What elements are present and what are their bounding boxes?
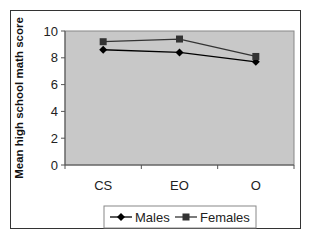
y-tick-label: 10 (44, 24, 58, 39)
x-tick-label: EO (170, 178, 189, 193)
legend: MalesFemales (104, 206, 256, 228)
line-chart: 0246810 CSEOO MalesFemales (0, 0, 310, 239)
y-tick-label: 4 (51, 104, 58, 119)
square-marker (100, 38, 107, 45)
y-tick-label: 2 (51, 131, 58, 146)
square-marker (176, 36, 183, 43)
x-tick-label: O (251, 178, 261, 193)
square-legend-icon (183, 214, 190, 221)
y-axis: 0246810 (44, 24, 65, 173)
y-tick-label: 6 (51, 77, 58, 92)
y-tick-label: 0 (51, 158, 58, 173)
legend-label: Males (135, 210, 170, 225)
x-axis: CSEOO (65, 165, 294, 193)
x-tick-label: CS (94, 178, 112, 193)
legend-label: Females (200, 210, 250, 225)
square-marker (252, 53, 259, 60)
y-tick-label: 8 (51, 50, 58, 65)
